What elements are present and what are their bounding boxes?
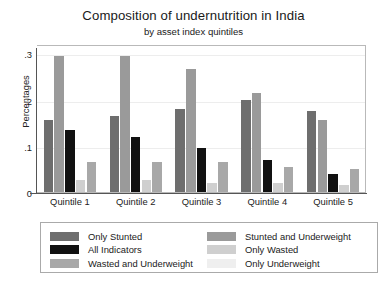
legend-label: Stunted and Underweight [245, 231, 351, 242]
bar [207, 183, 217, 192]
legend-item[interactable]: Only Underweight [207, 257, 320, 269]
legend-item[interactable]: Only Stunted [50, 230, 142, 242]
bar [87, 162, 97, 192]
bar [307, 111, 317, 192]
legend-swatch [50, 232, 79, 241]
bar [339, 185, 349, 192]
bar-group [103, 46, 169, 192]
plot-area [37, 45, 366, 193]
legend-swatch [207, 245, 236, 254]
bar [76, 180, 86, 192]
chart-subtitle: by asset index quintiles [0, 26, 387, 37]
x-tick-label: Quintile 5 [313, 196, 353, 207]
bar [263, 160, 273, 192]
legend-item[interactable]: Only Wasted [207, 244, 298, 256]
legend-swatch [50, 259, 79, 268]
y-tick-label: .3 [16, 49, 32, 60]
bar [284, 167, 294, 192]
x-axis-line [30, 193, 367, 194]
bar [175, 109, 185, 192]
bar [131, 137, 141, 193]
y-tick-label: .1 [16, 141, 32, 152]
legend-swatch [50, 245, 79, 254]
chart-legend: Only StuntedAll IndicatorsWasted and Und… [40, 222, 378, 273]
x-tick-label: Quintile 4 [247, 196, 287, 207]
bar-group [169, 46, 235, 192]
bar [44, 120, 54, 192]
bar-group [300, 46, 366, 192]
legend-label: Only Underweight [245, 258, 320, 269]
bar [273, 183, 283, 192]
chart-title: Composition of undernutrition in India [0, 8, 387, 23]
bar [218, 162, 228, 192]
bar [110, 116, 120, 192]
legend-swatch [207, 259, 236, 268]
bar-series-container [37, 46, 365, 192]
bar [142, 180, 152, 192]
bar [328, 174, 338, 193]
legend-label: Only Stunted [88, 231, 142, 242]
bar [197, 148, 207, 192]
y-tick-label: .2 [16, 95, 32, 106]
bar-group [234, 46, 300, 192]
bar [241, 100, 251, 193]
legend-label: All Indicators [88, 244, 142, 255]
bar [318, 120, 328, 192]
bar [54, 56, 64, 192]
bar [65, 130, 75, 192]
x-tick-label: Quintile 1 [50, 196, 90, 207]
bar [186, 69, 196, 192]
legend-label: Wasted and Underweight [88, 258, 193, 269]
legend-label: Only Wasted [245, 244, 298, 255]
chart-figure: Composition of undernutrition in India b… [0, 0, 387, 284]
x-tick-label: Quintile 2 [116, 196, 156, 207]
bar [252, 93, 262, 192]
bar-group [37, 46, 103, 192]
legend-swatch [207, 232, 236, 241]
bar [120, 56, 130, 192]
bar [350, 169, 360, 192]
legend-item[interactable]: Stunted and Underweight [207, 230, 351, 242]
x-tick-label: Quintile 3 [182, 196, 222, 207]
bar [152, 162, 162, 192]
legend-item[interactable]: Wasted and Underweight [50, 257, 193, 269]
y-axis-ticks: 0.1.2.3 [12, 0, 32, 284]
legend-item[interactable]: All Indicators [50, 244, 142, 256]
